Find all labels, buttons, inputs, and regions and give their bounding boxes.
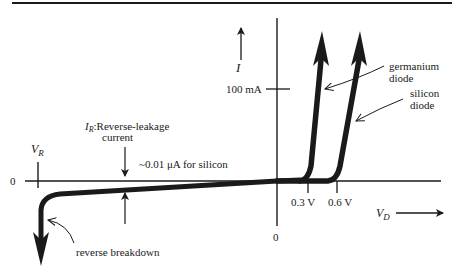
- silicon-label-line1: silicon: [410, 87, 440, 99]
- leakage-value: ~0.01 μA for silicon: [139, 158, 228, 170]
- tick-label-0-6v: 0.6 V: [328, 196, 352, 208]
- germanium-label-line2: diode: [389, 72, 414, 84]
- forward-voltage-label: VD: [376, 206, 390, 222]
- germanium-label-line1: germanium: [389, 60, 440, 72]
- silicon-pointer-icon: [356, 99, 403, 121]
- current-axis-label: I: [235, 60, 241, 75]
- breakdown-pointer-icon: [48, 220, 74, 243]
- germanium-curve: [277, 60, 321, 181]
- origin-label-bottom: 0: [273, 231, 279, 243]
- breakdown-label: reverse breakdown: [76, 246, 160, 258]
- reverse-voltage-label: VR: [31, 142, 44, 158]
- diode-iv-diagram: I 100 mA 0 0 VR VD 0.3 V 0.6 V IR:Revers…: [0, 0, 461, 276]
- leakage-title-line2: current: [102, 131, 133, 143]
- origin-label-left: 0: [10, 175, 16, 187]
- reverse-curve: [41, 180, 300, 240]
- silicon-label-line2: diode: [410, 99, 435, 111]
- tick-label-0-3v: 0.3 V: [291, 196, 315, 208]
- tick-label-100ma: 100 mA: [226, 83, 262, 95]
